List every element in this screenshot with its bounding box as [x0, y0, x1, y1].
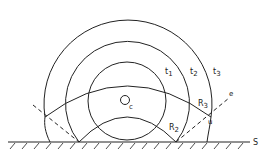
label-surface-s: S [253, 138, 258, 147]
label-r2: R2 [169, 123, 179, 134]
label-t1: t1 [165, 67, 173, 78]
diagram-canvas: t1 t2 t3 R3 R2 u e c S [0, 0, 265, 158]
ray-left [33, 105, 79, 142]
wavefront-t1 [88, 62, 166, 140]
label-t2: t2 [190, 67, 198, 78]
reflected-front-r3 [45, 86, 211, 117]
ground-hatching [10, 143, 243, 149]
label-r3: R3 [198, 99, 208, 110]
label-t3: t3 [213, 67, 221, 78]
label-u: u [208, 118, 212, 126]
label-e: e [229, 90, 233, 98]
label-q-subscript: c [129, 103, 133, 111]
